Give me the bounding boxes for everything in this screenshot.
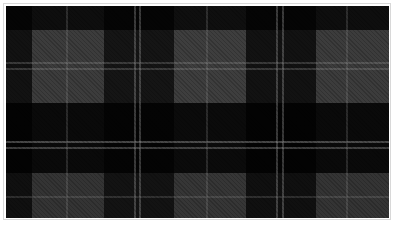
plaid-fabric-swatch: [6, 6, 389, 218]
weave-texture: [6, 6, 389, 218]
